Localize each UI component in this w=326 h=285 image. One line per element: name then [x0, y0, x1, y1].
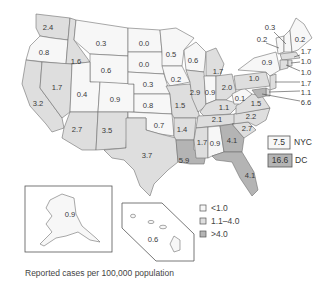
hawaii-frame — [122, 203, 194, 261]
inset-alaska: 0.9 — [25, 186, 112, 252]
label-OK: 0.7 — [154, 121, 165, 130]
label-VT: 0.2 — [257, 35, 268, 44]
state-CT — [280, 60, 288, 70]
label-AL: 0.9 — [210, 139, 221, 148]
label-MT: 0.3 — [96, 39, 107, 48]
label-WY: 0.6 — [101, 66, 112, 75]
state-NY — [238, 52, 280, 76]
label-NJ: 1.7 — [301, 79, 312, 88]
state-MT — [74, 20, 128, 56]
label-ND: 0.0 — [139, 39, 150, 48]
label-DE: 1.1 — [301, 88, 312, 97]
label-OR: 0.8 — [39, 48, 50, 57]
callout-dc: 16.6 DC — [268, 154, 307, 167]
state-VT — [276, 36, 284, 54]
nyc-label: NYC — [294, 137, 312, 147]
label-KY: 1.1 — [219, 103, 230, 112]
label-NH: 0.3 — [265, 23, 276, 32]
leader-MD — [262, 94, 300, 101]
label-PA: 1.0 — [249, 74, 260, 83]
label-WA: 2.4 — [43, 23, 54, 32]
label-TN: 2.1 — [212, 115, 223, 124]
label-HI: 0.6 — [148, 235, 159, 244]
label-MD: 6.6 — [301, 98, 312, 107]
label-MS: 1.7 — [197, 138, 208, 147]
label-VA: 1.5 — [251, 99, 262, 108]
label-NY: 0.9 — [262, 58, 273, 67]
label-UT: 0.4 — [77, 90, 88, 99]
label-RI: 1.0 — [301, 57, 312, 66]
label-TX: 3.7 — [142, 151, 153, 160]
label-ME: 0.2 — [295, 35, 306, 44]
label-MO: 1.5 — [175, 101, 186, 110]
island-oahu — [148, 220, 154, 223]
legend-swatch-mid — [200, 218, 206, 224]
label-SC: 2.7 — [242, 124, 253, 133]
nyc-value: 7.5 — [273, 137, 285, 147]
dc-value: 16.6 — [272, 155, 289, 165]
state-AK — [40, 194, 100, 246]
legend: <1.0 1.1–4.0 >4.0 — [200, 203, 240, 239]
legend-label-mid: 1.1–4.0 — [211, 216, 240, 226]
legend-swatch-low — [200, 205, 206, 211]
label-KS: 0.8 — [143, 101, 154, 110]
callout-nyc: 7.5 NYC — [268, 136, 312, 149]
label-AR: 1.4 — [177, 125, 188, 134]
island-big-island — [170, 236, 180, 252]
map-caption: Reported cases per 100,000 population — [25, 268, 174, 278]
label-NV: 1.7 — [52, 83, 63, 92]
label-ID: 1.6 — [71, 57, 82, 66]
label-SD: 0.0 — [139, 60, 150, 69]
label-MN: 0.5 — [166, 50, 177, 59]
label-CT: 1.0 — [301, 68, 312, 77]
label-NE: 0.3 — [143, 80, 154, 89]
label-WI: 0.6 — [188, 56, 199, 65]
label-IN: 0.9 — [205, 88, 216, 97]
us-map: 2.4 0.8 3.2 1.6 1.7 0.3 0.6 0.4 2.7 0.9 … — [0, 0, 326, 285]
label-WV: 0.1 — [235, 94, 246, 103]
label-MA: 1.7 — [301, 47, 312, 56]
legend-swatch-high — [200, 231, 206, 237]
island-maui — [160, 225, 167, 229]
label-OH: 2.0 — [222, 83, 233, 92]
label-AK: 0.9 — [65, 210, 76, 219]
leader-RI — [291, 62, 300, 63]
legend-label-low: <1.0 — [211, 203, 228, 213]
label-AZ: 2.7 — [72, 125, 83, 134]
label-IL: 2.9 — [190, 88, 201, 97]
label-IA: 0.2 — [171, 75, 182, 84]
label-FL: 4.1 — [245, 171, 256, 180]
label-CA: 3.2 — [33, 99, 44, 108]
label-NC: 2.2 — [246, 112, 257, 121]
island-kauai — [131, 214, 136, 218]
leader-DE — [269, 91, 300, 92]
label-MI: 1.7 — [213, 67, 224, 76]
label-CO: 0.9 — [110, 95, 121, 104]
inset-hawaii: 0.6 — [122, 203, 194, 261]
legend-label-high: >4.0 — [211, 229, 228, 239]
label-GA: 4.1 — [227, 136, 238, 145]
label-LA: 5.9 — [179, 156, 190, 165]
label-NM: 3.5 — [102, 126, 113, 135]
dc-label: DC — [295, 155, 307, 165]
